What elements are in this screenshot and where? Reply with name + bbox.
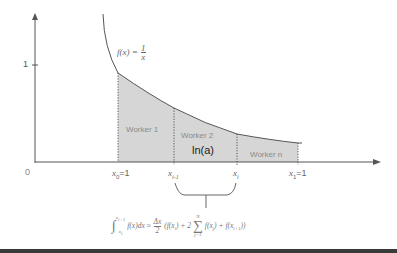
integral-limits: xi+1xi	[116, 215, 126, 237]
function-denominator: x	[141, 53, 146, 61]
frac-denominator: 2	[154, 227, 162, 235]
formula-part2-mid: ) + f(x	[214, 221, 233, 230]
interval-bracket	[175, 183, 236, 195]
worker-1-label: Worker 1	[126, 125, 158, 134]
bottom-border	[0, 249, 397, 253]
x-axis-arrow-icon	[373, 159, 381, 165]
formula-part1: (f(x	[164, 221, 174, 230]
delta-fraction: Δx2	[154, 218, 162, 235]
x0-suffix: =1	[119, 168, 129, 178]
trapezoidal-integration-diagram: f(x) = 1 x 1 0 Worker 1 Worker 2 Worker …	[0, 0, 397, 253]
x1-label: x1=1	[289, 168, 307, 180]
origin-label: 0	[25, 167, 30, 177]
function-lhs: f(x) =	[117, 47, 138, 57]
lower-limit-sub: i	[121, 231, 122, 236]
x1-suffix: =1	[296, 168, 306, 178]
xim1-label: xi-1	[168, 168, 179, 180]
xi-sub: i	[237, 174, 239, 180]
xi-label: xi	[233, 168, 239, 180]
worker-2-label: Worker 2	[181, 131, 213, 140]
worker-n-label: Worker n	[250, 150, 282, 159]
area-label-ln-a: ln(a)	[192, 144, 214, 156]
xim1-sub: i-1	[172, 174, 179, 180]
formula-part2: f(x	[205, 221, 213, 230]
formula-part2-end: ))	[241, 221, 246, 230]
integrand: f(x)dx ≈	[127, 221, 150, 230]
sum-lower: j=1	[193, 232, 203, 238]
upper-limit-sub: i+1	[118, 217, 125, 222]
function-fraction: 1 x	[141, 44, 146, 61]
function-label: f(x) = 1 x	[117, 44, 147, 61]
sum-operator: N∑j=1	[193, 214, 203, 238]
trapezoidal-formula: ∫xi+1xi f(x)dx ≈ Δx2 (f(xi) + 2 N∑j=1 f(…	[112, 214, 246, 238]
sigma-sign: ∑	[193, 220, 203, 232]
y-tick-label: 1	[23, 59, 28, 69]
x0-label: x0=1	[112, 168, 130, 180]
y-axis-arrow-icon	[32, 13, 38, 20]
formula-part1-end: ) + 2	[176, 221, 191, 230]
formula-part2-sub2: i+1	[233, 226, 240, 231]
